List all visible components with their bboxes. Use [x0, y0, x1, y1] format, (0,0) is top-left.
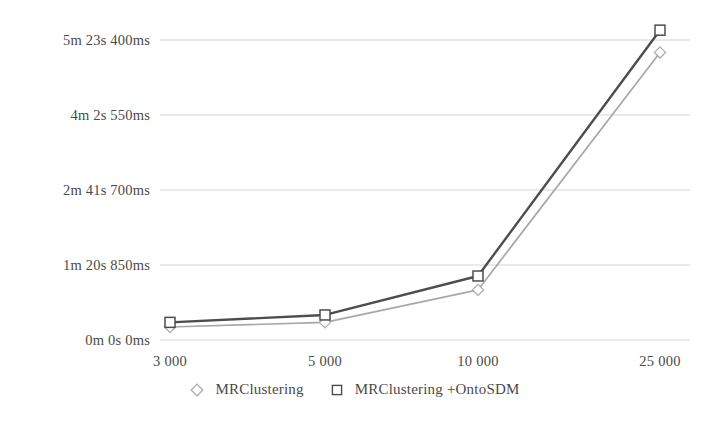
square-marker-icon [473, 271, 483, 281]
x-axis-tick-label: 10 000 [457, 353, 499, 370]
diamond-marker-icon [190, 383, 204, 397]
square-marker-icon [165, 317, 175, 327]
legend-label: MRClustering +OntoSDM [355, 381, 520, 398]
x-axis-tick-label: 3 000 [153, 353, 187, 370]
plot-area [0, 0, 710, 425]
chart-legend: MRClustering MRClustering +OntoSDM [0, 381, 710, 398]
series-markers [164, 25, 665, 332]
series-lines [170, 30, 660, 327]
gridlines [160, 40, 690, 340]
legend-label: MRClustering [215, 381, 303, 398]
square-marker-icon [320, 310, 330, 320]
x-axis-tick-label: 25 000 [639, 353, 681, 370]
series-line [170, 30, 660, 322]
legend-entry-mrclustering-ontosdm: MRClustering +OntoSDM [330, 381, 520, 398]
square-marker-icon [330, 383, 344, 397]
line-chart: 5m 23s 400ms 4m 2s 550ms 2m 41s 700ms 1m… [0, 0, 710, 425]
square-marker-icon [655, 25, 665, 35]
x-axis-tick-label: 5 000 [308, 353, 342, 370]
legend-entry-mrclustering: MRClustering [190, 381, 303, 398]
